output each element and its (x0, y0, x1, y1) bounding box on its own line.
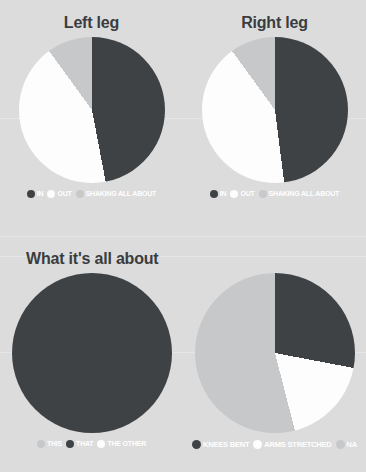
legend-what-its-all-about: THIS THAT THE OTHER (37, 440, 146, 448)
legend-label: ARMS STRETCHED (264, 441, 331, 449)
legend-item-knees-bent[interactable]: KNEES BENT (192, 440, 249, 449)
legend-item-shaking-all-about[interactable]: SHAKING ALL ABOUT (76, 190, 157, 198)
chart-panel-what-its-all-about: What it's all about THIS THAT THE OTHER (0, 236, 183, 472)
pie-chart-what-its-all-about (12, 273, 172, 433)
chart-title-what-its-all-about: What it's all about (26, 249, 158, 269)
pie-chart-grid: Left leg IN OUT SHAKING ALL ABOUT Right … (0, 0, 366, 472)
legend-swatch-icon (336, 440, 345, 449)
legend-swatch-icon (37, 440, 45, 448)
legend-label: NA (347, 441, 357, 449)
pie-wrap-positions (195, 273, 355, 433)
legend-label: KNEES BENT (203, 441, 249, 449)
legend-swatch-icon (192, 440, 201, 449)
pie-chart-left-leg (19, 37, 165, 183)
legend-left-leg: IN OUT SHAKING ALL ABOUT (27, 190, 156, 198)
legend-item-in[interactable]: IN (27, 190, 44, 198)
legend-label: OUT (57, 190, 71, 198)
legend-item-out[interactable]: OUT (47, 190, 71, 198)
legend-label: OUT (240, 190, 254, 198)
legend-swatch-icon (259, 190, 267, 198)
legend-swatch-icon (76, 190, 84, 198)
legend-label: SHAKING ALL ABOUT (269, 190, 340, 198)
legend-right-leg: IN OUT SHAKING ALL ABOUT (210, 190, 339, 198)
legend-item-the-other[interactable]: THE OTHER (97, 440, 146, 448)
chart-panel-positions: KNEES BENT ARMS STRETCHED NA (183, 236, 366, 472)
legend-swatch-icon (253, 440, 262, 449)
legend-label: SHAKING ALL ABOUT (86, 190, 157, 198)
pie-chart-right-leg (202, 37, 348, 183)
chart-panel-left-leg: Left leg IN OUT SHAKING ALL ABOUT (0, 0, 183, 236)
legend-item-na[interactable]: NA (336, 440, 357, 449)
legend-item-out[interactable]: OUT (230, 190, 254, 198)
legend-label: THE OTHER (107, 440, 146, 448)
chart-title-left-leg: Left leg (64, 13, 119, 33)
chart-title-right-leg: Right leg (241, 13, 308, 33)
pie-wrap-right-leg (202, 37, 348, 183)
legend-positions: KNEES BENT ARMS STRETCHED NA (192, 440, 357, 449)
pie-wrap-left-leg (19, 37, 165, 183)
legend-item-shaking-all-about[interactable]: SHAKING ALL ABOUT (259, 190, 340, 198)
legend-item-in[interactable]: IN (210, 190, 227, 198)
legend-label: IN (220, 190, 227, 198)
pie-wrap-what-its-all-about (12, 273, 172, 433)
legend-swatch-icon (27, 190, 35, 198)
legend-swatch-icon (210, 190, 218, 198)
legend-swatch-icon (66, 440, 74, 448)
chart-panel-right-leg: Right leg IN OUT SHAKING ALL ABOUT (183, 0, 366, 236)
pie-chart-positions (195, 273, 355, 433)
legend-item-that[interactable]: THAT (66, 440, 93, 448)
legend-swatch-icon (230, 190, 238, 198)
legend-swatch-icon (47, 190, 55, 198)
legend-swatch-icon (97, 440, 105, 448)
legend-item-this[interactable]: THIS (37, 440, 62, 448)
legend-label: THIS (47, 440, 62, 448)
legend-label: IN (37, 190, 44, 198)
legend-label: THAT (76, 440, 93, 448)
legend-item-arms-stretched[interactable]: ARMS STRETCHED (253, 440, 331, 449)
